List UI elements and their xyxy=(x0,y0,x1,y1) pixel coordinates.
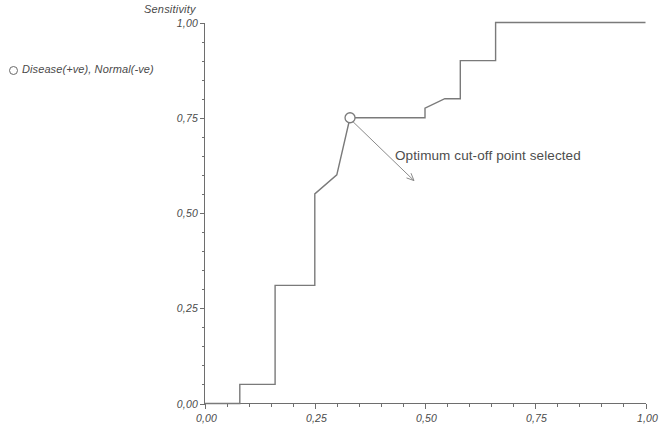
optimum-cutoff-point-marker xyxy=(345,113,355,123)
y-axis-title: Sensitivity xyxy=(144,3,196,15)
x-tick-label: 0,25 xyxy=(300,412,334,424)
y-tick-label: 0,25 xyxy=(150,302,198,314)
y-tick-label: 1,00 xyxy=(150,17,198,29)
y-axis-ticks xyxy=(200,24,205,405)
x-axis-ticks xyxy=(206,404,647,409)
x-tick-label: 0,50 xyxy=(410,412,444,424)
legend-entry-label: Disease(+ve), Normal(-ve) xyxy=(22,63,154,75)
x-tick-label: 0,00 xyxy=(190,412,224,424)
annotation-text: Optimum cut-off point selected xyxy=(395,148,581,163)
x-tick-label: 1,00 xyxy=(631,412,659,424)
y-tick-label: 0,50 xyxy=(150,207,198,219)
roc-curve xyxy=(205,23,646,404)
y-tick-label: 0,00 xyxy=(150,398,198,410)
x-tick-label: 0,75 xyxy=(520,412,554,424)
roc-chart: Sensitivity Disease(+ve), Normal(-ve) Op… xyxy=(0,0,659,427)
y-tick-label: 0,75 xyxy=(150,112,198,124)
legend-marker-icon xyxy=(10,67,18,75)
